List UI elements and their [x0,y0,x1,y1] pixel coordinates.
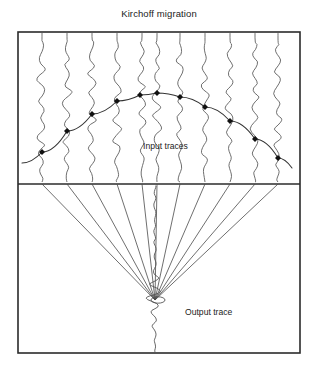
figure-canvas [0,0,318,368]
figure-frame [18,32,300,353]
migration-ray-group [42,184,278,300]
input-trace-group [37,32,282,182]
input-traces-label: Input traces [143,141,188,151]
kirchoff-migration-figure: Kirchoff migration Input traces Output t… [0,0,318,368]
output-trace-label: Output trace [185,307,232,317]
